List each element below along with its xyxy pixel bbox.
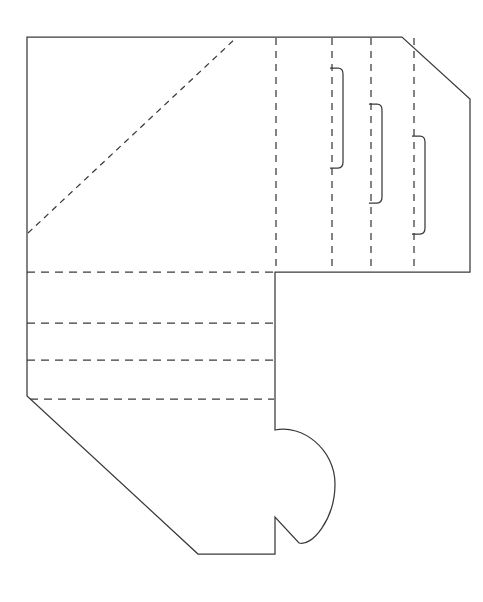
dieline-drawing — [0, 0, 483, 602]
dieline-canvas — [0, 0, 483, 602]
dieline-fill — [27, 37, 470, 554]
